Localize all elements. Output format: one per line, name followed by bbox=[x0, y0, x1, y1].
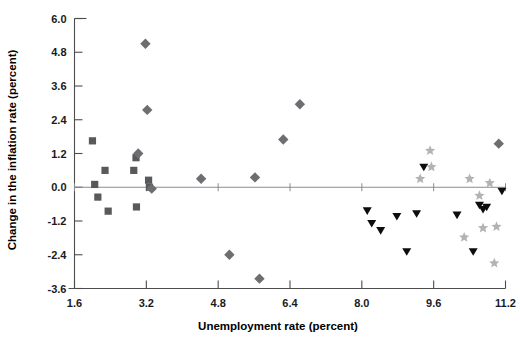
data-point-square bbox=[145, 177, 152, 184]
x-axis-title: Unemployment rate (percent) bbox=[198, 320, 358, 332]
x-tick-label: 3.2 bbox=[139, 297, 154, 309]
x-tick-label: 8.0 bbox=[354, 297, 369, 309]
data-point-square bbox=[130, 167, 137, 174]
y-tick-label: 4.8 bbox=[51, 46, 66, 58]
y-tick-label: -2.4 bbox=[48, 249, 68, 261]
y-tick-label: 0.0 bbox=[51, 181, 66, 193]
y-axis-title: Change in the inflation rate (percent) bbox=[6, 50, 18, 251]
scatter-plot-figure: 6.04.83.62.41.20.0-1.2-2.4-3.6 1.63.24.8… bbox=[0, 0, 520, 342]
data-point-square bbox=[91, 181, 98, 188]
y-tick-label: 2.4 bbox=[51, 114, 67, 126]
x-tick-label: 1.6 bbox=[67, 297, 82, 309]
data-point-square bbox=[101, 167, 108, 174]
chart-background bbox=[0, 0, 520, 342]
y-tick-label: 3.6 bbox=[51, 80, 66, 92]
data-point-square bbox=[105, 208, 112, 215]
data-point-square bbox=[94, 193, 101, 200]
data-point-square bbox=[89, 137, 96, 144]
y-tick-label: 6.0 bbox=[51, 13, 66, 25]
x-tick-label: 6.4 bbox=[282, 297, 298, 309]
x-tick-label: 9.6 bbox=[426, 297, 441, 309]
x-tick-label: 4.8 bbox=[211, 297, 226, 309]
y-tick-label: -3.6 bbox=[48, 283, 67, 295]
data-point-square bbox=[133, 203, 140, 210]
y-tick-label: 1.2 bbox=[51, 148, 66, 160]
x-tick-label: 11.2 bbox=[495, 297, 516, 309]
y-tick-label: -1.2 bbox=[48, 215, 67, 227]
chart-canvas: 6.04.83.62.41.20.0-1.2-2.4-3.6 1.63.24.8… bbox=[0, 0, 520, 342]
